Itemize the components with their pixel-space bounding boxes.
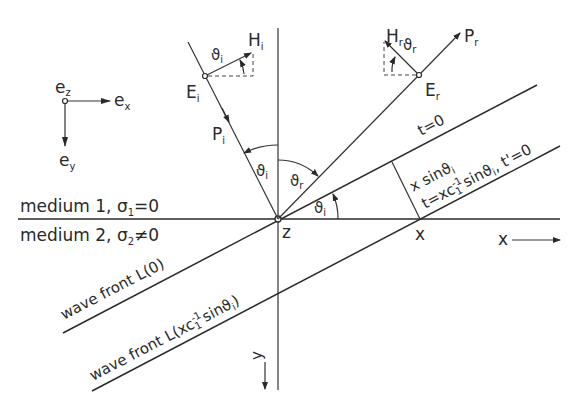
incident-ray bbox=[188, 42, 278, 219]
Er-label: Er bbox=[425, 80, 441, 102]
ey-label: ey bbox=[59, 150, 75, 172]
y-axis-label: y bbox=[248, 351, 266, 360]
wavefront-L0-label: wave front L(0) bbox=[58, 255, 168, 324]
basis-vectors: ez ex ey bbox=[55, 77, 130, 172]
x-point-label: x bbox=[415, 224, 425, 244]
wavefront-Lx-label: wave front L(xc-11 sinϑi) bbox=[86, 291, 243, 386]
reflected-ray bbox=[278, 75, 419, 219]
wave-reflection-diagram: ez ex ey x y medium 1, σ1=0 medium 2, σ2… bbox=[0, 0, 579, 409]
incident-H-angle-arc bbox=[240, 60, 244, 74]
reflected-P-arrow-icon bbox=[421, 33, 460, 73]
t0-label: t=0 bbox=[415, 111, 448, 140]
medium2-label: medium 2, σ2≠0 bbox=[20, 225, 159, 247]
theta-i-axis-arc bbox=[333, 194, 338, 219]
Hi-label: Hi bbox=[248, 30, 264, 52]
theta-i-arc bbox=[244, 145, 278, 153]
Pr-label: Pr bbox=[464, 26, 479, 48]
reflected-E-point-icon bbox=[417, 73, 422, 78]
reflected-H-angle-label: ϑr bbox=[403, 36, 417, 55]
ez-origin-icon bbox=[63, 99, 68, 104]
Hr-label: Hr bbox=[386, 26, 404, 48]
theta-i-label: ϑi bbox=[256, 162, 268, 181]
theta-i-axis-label: ϑi bbox=[314, 199, 326, 218]
Pi-label: Pi bbox=[212, 124, 225, 146]
Ei-label: Ei bbox=[186, 82, 200, 104]
reflected-H-angle-arc bbox=[392, 57, 395, 72]
incident-direction-arrow-icon bbox=[222, 108, 229, 122]
x-axis-label: x bbox=[498, 229, 508, 249]
ez-label: ez bbox=[55, 77, 71, 98]
incident-H-angle-label: ϑi bbox=[211, 46, 223, 65]
incident-E-point-icon bbox=[203, 74, 208, 79]
medium1-label: medium 1, σ1=0 bbox=[20, 196, 159, 218]
ex-label: ex bbox=[114, 90, 130, 112]
theta-r-label: ϑr bbox=[290, 172, 304, 191]
origin-label: z bbox=[282, 222, 291, 242]
